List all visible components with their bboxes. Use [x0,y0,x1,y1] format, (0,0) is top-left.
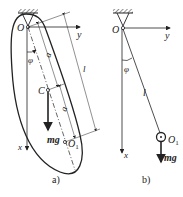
figure-a: O y x φ C mg O1 a a l a) [11,9,100,186]
label-a-lower: a [58,105,69,113]
label-l-b: l [143,87,146,98]
label-mg-b: mg [164,152,177,163]
label-y-a: y [76,29,82,40]
figure-b: O y x φ l O1 mg b) [112,9,179,186]
caption-b: b) [142,174,150,186]
label-o1-b: O1 [168,134,179,147]
caption-a: a) [52,174,60,186]
label-c: C [38,85,45,96]
pendulum-diagram: O y x φ C mg O1 a a l a) O y x φ l [0,0,183,197]
label-phi-a: φ [28,55,33,65]
angle-arc [27,50,36,52]
pendulum-string [123,29,160,133]
ceiling-support-icon [18,9,38,13]
label-phi-b: φ [124,64,129,74]
label-x-a: x [17,142,22,152]
angle-arc-b [122,58,132,61]
ceiling-support-icon-b [113,9,133,13]
label-a-upper: a [42,51,53,59]
label-o1-a: O1 [68,138,79,151]
label-y-b: y [164,30,170,41]
label-l-a: l [83,64,86,74]
label-x-b: x [123,150,128,160]
label-o-a: O [17,22,24,33]
label-mg-a: mg [47,134,60,145]
label-o-b: O [112,24,119,35]
